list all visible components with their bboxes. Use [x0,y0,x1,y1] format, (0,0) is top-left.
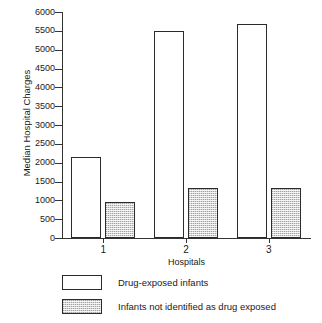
y-axis-tick [55,182,62,183]
legend-item-label: Drug-exposed infants [118,277,208,288]
y-axis-tick-label: 500 [17,215,55,224]
bar-3-series-1 [237,24,267,238]
chart-legend: Drug-exposed infantsInfants not identifi… [62,272,320,320]
y-axis-tick-label: 3500 [17,102,55,111]
y-axis-tick-label: 2000 [17,158,55,167]
y-axis-tick [55,163,62,164]
x-axis-tick-label: 2 [176,244,196,255]
y-axis-tick-label: 4500 [17,64,55,73]
y-axis-tick-label: 4000 [17,83,55,92]
bar-1-series-1 [71,157,101,238]
x-axis-tick [269,238,270,243]
bar-3-series-2 [271,188,301,238]
stippled-rect-swatch [62,299,102,314]
y-axis-tick-label: 1000 [17,196,55,205]
x-axis-title: Hospitals [62,257,311,267]
y-axis-tick [55,200,62,201]
y-axis-tick [55,69,62,70]
y-axis-tick [55,106,62,107]
legend-item-2: Infants not identified as drug exposed [62,296,320,316]
y-axis-tick [55,125,62,126]
y-axis-tick-label: 5000 [17,45,55,54]
y-axis-tick-labels: 0500100015002000250030003500400045005000… [10,0,55,323]
y-axis-tick-label: 2500 [17,139,55,148]
y-axis-tick-label: 0 [17,234,55,243]
y-axis-tick [55,50,62,51]
y-axis-tick [55,87,62,88]
x-axis-tick [186,238,187,243]
y-axis-tick [55,219,62,220]
y-axis-tick-label: 6000 [17,8,55,17]
legend-item-label: Infants not identified as drug exposed [118,301,276,312]
y-axis-tick [55,12,62,13]
bar-chart-figure: Median Hospital Charges 0500100015002000… [0,0,322,323]
y-axis-tick [55,238,62,239]
y-axis-tick-label: 1500 [17,177,55,186]
bar-2-series-1 [154,31,184,238]
legend-item-1: Drug-exposed infants [62,272,320,292]
bar-1-series-2 [105,202,135,238]
plot-area [62,12,310,238]
open-rect-swatch [62,275,102,290]
bar-2-series-2 [188,188,218,238]
y-axis-tick [55,144,62,145]
y-axis-tick-label: 5500 [17,26,55,35]
x-axis-tick-label: 3 [259,244,279,255]
x-axis-tick [103,238,104,243]
y-axis-tick [55,31,62,32]
y-axis-tick-label: 3000 [17,121,55,130]
x-axis-tick-label: 1 [93,244,113,255]
